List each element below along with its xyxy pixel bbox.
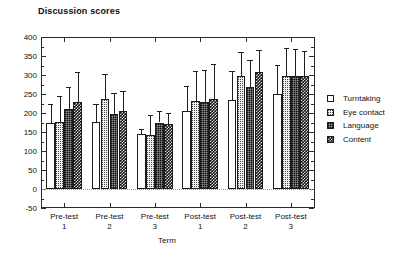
- legend-item-label: Eye contact: [343, 108, 385, 117]
- y-axis-minor-tick: [41, 199, 44, 200]
- x-axis-category-label: Pre-test1: [50, 212, 78, 232]
- bar: [273, 94, 281, 189]
- error-bar: [51, 104, 52, 123]
- error-bar: [78, 72, 79, 102]
- y-axis-tick-label: 350: [24, 52, 37, 61]
- x-axis-tick-bottom: [200, 203, 201, 208]
- bar: [137, 134, 145, 189]
- bar: [228, 100, 236, 189]
- y-axis-labels: 400350300250200150100500-50: [0, 0, 37, 276]
- category-label-line2: 1: [50, 222, 78, 232]
- error-bar-cap: [75, 72, 80, 73]
- bar: [92, 122, 100, 189]
- bar: [209, 99, 217, 189]
- error-bar-cap: [102, 74, 107, 75]
- error-bar: [96, 104, 97, 122]
- error-bar: [241, 52, 242, 76]
- legend-item-label: Turntaking: [343, 94, 381, 103]
- bar: [300, 76, 308, 189]
- error-bar-cap: [302, 51, 307, 52]
- y-axis-tick-label: -50: [25, 204, 37, 213]
- y-axis-tick-label: 250: [24, 90, 37, 99]
- legend-swatch-icon: [327, 109, 334, 116]
- error-bar-cap: [247, 60, 252, 61]
- category-label-line1: Post-test: [230, 212, 262, 222]
- bar: [191, 101, 199, 189]
- error-bar: [286, 48, 287, 75]
- legend-item[interactable]: Content: [327, 133, 385, 147]
- error-bar: [205, 70, 206, 102]
- error-bar: [214, 64, 215, 99]
- error-bar-cap: [148, 115, 153, 116]
- y-axis-tick-label: 100: [24, 147, 37, 156]
- category-label-line1: Pre-test: [95, 212, 123, 222]
- error-bar-cap: [48, 104, 53, 105]
- error-bar-cap: [184, 86, 189, 87]
- legend-item-label: Content: [343, 135, 371, 144]
- x-axis-tick-bottom: [291, 203, 292, 208]
- bar: [246, 87, 254, 189]
- error-bar-cap: [256, 50, 261, 51]
- error-bar-cap: [157, 111, 162, 112]
- legend-item[interactable]: Turntaking: [327, 92, 385, 106]
- bar: [46, 123, 54, 189]
- y-axis-tick-label: 0: [33, 185, 37, 194]
- y-axis-minor-tick-right: [311, 199, 314, 200]
- legend-item[interactable]: Language: [327, 119, 385, 133]
- error-bar: [232, 71, 233, 100]
- category-label-line1: Pre-test: [50, 212, 78, 222]
- error-bar: [69, 87, 70, 109]
- error-bar-cap: [202, 70, 207, 71]
- bar: [282, 76, 290, 189]
- legend-item-label: Language: [343, 121, 379, 130]
- bar: [291, 76, 299, 189]
- error-bar: [277, 65, 278, 94]
- legend-swatch-icon: [327, 136, 334, 143]
- bar: [182, 111, 190, 189]
- x-axis-tick-bottom: [246, 203, 247, 208]
- category-label-line2: 3: [141, 222, 169, 232]
- y-axis-tick-label: 300: [24, 71, 37, 80]
- bar: [200, 102, 208, 189]
- error-bar-cap: [93, 104, 98, 105]
- chart-title: Discussion scores: [38, 6, 120, 16]
- legend-item[interactable]: Eye contact: [327, 106, 385, 120]
- zero-line: [42, 189, 314, 190]
- error-bar: [196, 71, 197, 101]
- error-bar-cap: [111, 93, 116, 94]
- bar: [237, 76, 245, 189]
- error-bar: [295, 49, 296, 76]
- bar: [64, 109, 72, 189]
- bar: [55, 122, 63, 189]
- bar-series-layer: [42, 37, 314, 189]
- x-axis-tick-bottom: [110, 203, 111, 208]
- error-bar-cap: [139, 129, 144, 130]
- category-label-line1: Post-test: [184, 212, 216, 222]
- y-axis-tick-label: 400: [24, 33, 37, 42]
- error-bar-cap: [57, 96, 62, 97]
- error-bar-cap: [238, 52, 243, 53]
- bar: [146, 135, 154, 189]
- error-bar: [259, 50, 260, 72]
- error-bar-cap: [275, 65, 280, 66]
- x-axis-tick-bottom: [155, 203, 156, 208]
- category-label-line2: 1: [184, 222, 216, 232]
- error-bar: [250, 60, 251, 87]
- error-bar: [105, 74, 106, 99]
- y-axis-tick: [41, 208, 46, 209]
- bar: [255, 72, 263, 189]
- bar: [73, 102, 81, 189]
- x-axis-category-label: Pre-test3: [141, 212, 169, 232]
- legend-swatch-icon: [327, 95, 334, 102]
- error-bar: [60, 96, 61, 123]
- y-axis-tick-label: 150: [24, 128, 37, 137]
- y-axis-tick-right: [309, 208, 314, 209]
- bar: [164, 124, 172, 189]
- x-axis-category-label: Pre-test2: [95, 212, 123, 232]
- error-bar: [123, 91, 124, 111]
- error-bar: [159, 111, 160, 122]
- error-bar-cap: [229, 71, 234, 72]
- bar: [155, 123, 163, 190]
- error-bar-cap: [284, 48, 289, 49]
- category-label-line2: 2: [95, 222, 123, 232]
